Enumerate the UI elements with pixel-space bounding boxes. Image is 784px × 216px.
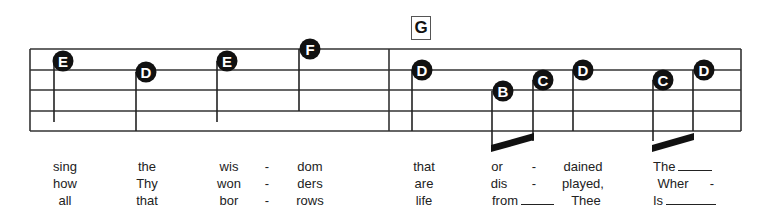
svg-text:B: B [498,83,509,100]
lyric-word: life [416,193,433,209]
lyric-word: ders [297,176,322,192]
lyric-word: bor [220,193,239,209]
lyric-hyphen: - [710,176,714,192]
lyric-word: The [653,159,675,174]
note-head-b: B [493,81,514,102]
note-head-d: D [136,62,157,83]
lyric-word: Thee [571,193,601,209]
lyric-word: from [492,193,518,208]
svg-text:D: D [417,62,428,79]
eighth-note-beams [491,133,694,152]
beam [652,133,694,152]
lyric-word: Is [653,193,663,208]
lyric-word: wis [220,159,239,175]
lyric-word: are [415,176,434,192]
lyric-word: Wher [657,176,688,192]
lyric-word: played, [562,176,604,192]
lyric-word: rows [296,193,323,209]
melisma-line [521,203,554,205]
lyric-word: all [58,193,71,209]
note-head-c: C [533,70,554,91]
lyric-hyphen: - [532,176,536,192]
note-head-e: E [217,51,238,72]
lyric-word-with-extender: from [492,193,554,209]
lyric-word: dom [297,159,322,175]
chord-symbol-box: G [411,16,431,40]
svg-text:D: D [141,64,152,81]
lyric-word: dis [491,176,508,192]
svg-text:D: D [578,62,589,79]
note-head-d: D [573,60,594,81]
svg-text:C: C [538,72,549,89]
lyric-word: won [217,176,241,192]
svg-text:E: E [58,53,68,70]
lyric-word-with-extender: The [653,159,712,175]
lyric-word: the [138,159,156,175]
lyric-word: sing [53,159,77,175]
lyric-word: how [53,176,77,192]
lyric-word: that [136,193,158,209]
lyric-hyphen: - [265,193,269,209]
lyric-hyphen: - [532,159,536,175]
beam [491,133,534,152]
lyric-word: dained [563,159,602,175]
lyric-hyphen: - [265,176,269,192]
svg-text:C: C [658,72,669,89]
lyric-word: Thy [136,176,158,192]
lyric-word: that [413,159,435,175]
note-head-d: D [694,60,715,81]
lyric-word-with-extender: Is [653,193,716,209]
note-head-e: E [53,51,74,72]
svg-text:F: F [305,41,314,58]
melisma-line [666,203,716,205]
svg-text:D: D [699,62,710,79]
note-head-d: D [412,60,433,81]
melisma-line [678,169,712,171]
note-head-c: C [653,70,674,91]
lyric-hyphen: - [265,159,269,175]
note-head-f: F [300,39,321,60]
lyric-word: or [491,159,503,175]
svg-text:E: E [222,53,232,70]
